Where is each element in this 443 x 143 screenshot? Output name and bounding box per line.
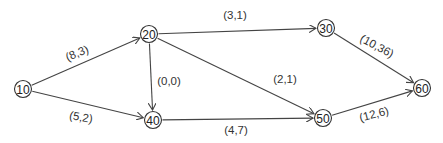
edge-label-10-40: (5,2) <box>68 109 94 125</box>
node-label: 40 <box>146 114 160 128</box>
edge-label-20-40: (0,0) <box>157 75 181 87</box>
edge-label-20-50: (2,1) <box>273 73 297 85</box>
edge-label-30-60: (10,36) <box>358 32 396 60</box>
edge-20-30 <box>158 28 316 33</box>
edge-label-10-20: (8,3) <box>64 43 91 63</box>
edge-label-40-50: (4,7) <box>224 124 248 136</box>
node-20: 20 <box>141 26 158 43</box>
edge-40-50 <box>162 118 313 120</box>
node-label: 20 <box>142 28 156 42</box>
node-label: 30 <box>319 22 333 36</box>
node-label: 60 <box>415 82 429 96</box>
node-60: 60 <box>414 80 431 97</box>
node-label: 50 <box>316 112 330 126</box>
node-10: 10 <box>15 81 32 98</box>
node-40: 40 <box>145 112 162 129</box>
node-30: 30 <box>318 20 335 37</box>
edge-20-40 <box>149 43 152 110</box>
edge-label-20-30: (3,1) <box>223 9 247 21</box>
node-50: 50 <box>315 110 332 127</box>
network-diagram: (8,3)(5,2)(0,0)(3,1)(2,1)(4,7)(10,36)(12… <box>0 0 443 143</box>
node-label: 10 <box>16 83 30 97</box>
edge-label-50-60: (12,6) <box>358 104 390 123</box>
